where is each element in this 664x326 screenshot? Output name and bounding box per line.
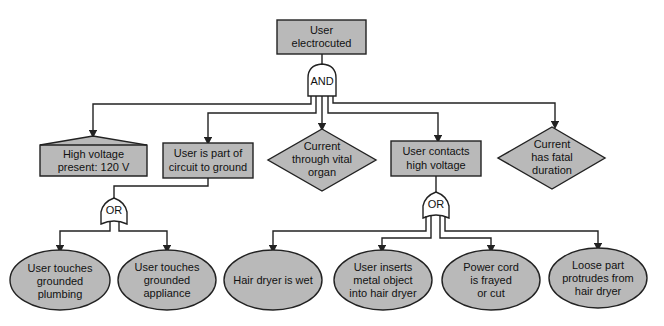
basic-event-cord-frayed: Power cord is frayed or cut: [442, 250, 540, 310]
appliance-label-line2: grounded: [144, 274, 191, 286]
conditioning-event-vital-organ: Current through vital organ: [268, 129, 376, 191]
wire-to-fatal-duration: [333, 96, 555, 125]
top-event-label-line2: electrocuted: [292, 37, 352, 49]
plumbing-label-line3: plumbing: [38, 288, 83, 300]
high-voltage-label-line1: High voltage: [63, 148, 124, 160]
circuit-ground-label-line1: User is part of: [174, 147, 243, 159]
circuit-ground-label-line2: circuit to ground: [169, 161, 247, 173]
basic-event-dryer-wet: Hair dryer is wet: [224, 250, 322, 310]
house-event-high-voltage: High voltage present: 120 V: [40, 136, 147, 176]
plumbing-label-line1: User touches: [28, 262, 93, 274]
plumbing-label-line2: grounded: [37, 275, 84, 287]
wire-to-dryer-wet: [273, 216, 426, 249]
basic-event-grounded-plumbing: User touches grounded plumbing: [10, 250, 110, 310]
or-gate-right: OR: [423, 192, 449, 218]
fatal-duration-label-line1: Current: [534, 138, 571, 150]
fault-tree-diagram: User electrocuted AND High voltage prese…: [0, 0, 664, 326]
wire-to-high-voltage: [93, 96, 311, 134]
metal-object-label-line2: metal object: [353, 274, 412, 286]
cord-label-line1: Power cord: [463, 261, 519, 273]
loose-part-label-line1: Loose part: [572, 259, 624, 271]
basic-event-grounded-appliance: User touches grounded appliance: [118, 250, 216, 310]
and-gate: AND: [308, 64, 336, 96]
fatal-duration-label-line3: duration: [532, 164, 572, 176]
wire-to-metal-object: [382, 216, 431, 249]
loose-part-label-line2: protrudes from: [562, 272, 634, 284]
loose-part-label-line3: hair dryer: [575, 285, 622, 297]
event-circuit-to-ground: User is part of circuit to ground: [163, 143, 253, 178]
fatal-duration-label-line2: has fatal: [531, 151, 573, 163]
wire-to-appliance: [119, 222, 167, 249]
and-gate-label: AND: [310, 75, 333, 87]
vital-organ-label-line2: through vital: [292, 153, 352, 165]
contacts-hv-label-line1: User contacts: [402, 145, 470, 157]
top-event-label-line1: User: [310, 24, 334, 36]
or-gate-left-label: OR: [106, 204, 123, 216]
appliance-label-line3: appliance: [143, 287, 190, 299]
or-gate-right-label: OR: [428, 198, 445, 210]
contacts-hv-label-line2: high voltage: [406, 159, 465, 171]
appliance-label-line1: User touches: [135, 261, 200, 273]
conditioning-event-fatal-duration: Current has fatal duration: [498, 127, 605, 189]
high-voltage-label-line2: present: 120 V: [58, 161, 130, 173]
cord-label-line3: or cut: [477, 287, 505, 299]
or-gate-left: OR: [101, 198, 127, 224]
metal-object-label-line3: into hair dryer: [349, 287, 417, 299]
basic-event-metal-object: User inserts metal object into hair drye…: [334, 250, 432, 310]
vital-organ-label-line1: Current: [304, 140, 341, 152]
connector-left-or: [114, 178, 208, 200]
wire-to-loose-part: [445, 216, 598, 247]
cord-label-line2: is frayed: [470, 274, 512, 286]
wire-to-plumbing: [60, 222, 110, 249]
metal-object-label-line1: User inserts: [354, 261, 413, 273]
top-event-user-electrocuted: User electrocuted: [277, 20, 366, 54]
wire-to-circuit-ground: [208, 96, 316, 141]
dryer-wet-label: Hair dryer is wet: [233, 274, 312, 286]
wire-to-cord-frayed: [440, 216, 491, 249]
event-contacts-high-voltage: User contacts high voltage: [391, 141, 481, 176]
vital-organ-label-line3: organ: [308, 166, 336, 178]
basic-event-loose-part: Loose part protrudes from hair dryer: [549, 248, 647, 308]
